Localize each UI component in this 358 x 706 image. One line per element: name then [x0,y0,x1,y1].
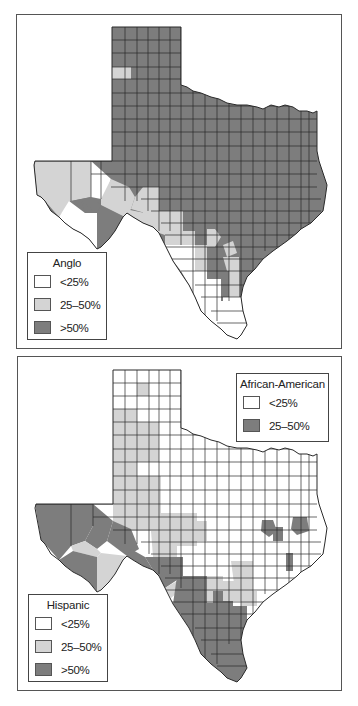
african-american-legend-item-low: <25% [237,391,328,414]
swatch-high [35,663,52,676]
hispanic-legend-item-high: >50% [29,658,107,681]
swatch-high [34,321,51,334]
anglo-legend-item-low: <25% [28,270,106,293]
anglo-map-panel: Anglo <25% 25–50% >50% [16,14,342,349]
swatch-low [35,617,52,630]
anglo-legend-item-high: >50% [28,316,106,339]
legend-label: <25% [60,276,89,288]
african-american-legend-title: African-American [237,377,328,391]
anglo-legend: Anglo <25% 25–50% >50% [27,252,107,340]
hispanic-african-american-map-panel: African-American <25% 25–50% Hispanic <2… [17,356,342,691]
legend-label: 25–50% [269,420,309,432]
swatch-low [243,396,260,409]
swatch-low [34,275,51,288]
legend-label: >50% [61,664,90,676]
swatch-mid [35,640,52,653]
legend-label: >50% [60,322,89,334]
anglo-legend-item-mid: 25–50% [28,293,106,316]
swatch-mid [34,298,51,311]
swatch-high [243,419,260,432]
african-american-legend: African-American <25% 25–50% [236,373,329,442]
african-american-legend-item-high: 25–50% [237,414,328,437]
legend-label: 25–50% [60,299,100,311]
hispanic-legend-item-low: <25% [29,612,107,635]
hispanic-legend: Hispanic <25% 25–50% >50% [28,594,108,682]
hispanic-legend-title: Hispanic [29,598,107,612]
legend-label: <25% [269,397,298,409]
anglo-legend-title: Anglo [28,256,106,270]
legend-label: 25–50% [61,641,101,653]
hispanic-legend-item-mid: 25–50% [29,635,107,658]
legend-label: <25% [61,618,90,630]
